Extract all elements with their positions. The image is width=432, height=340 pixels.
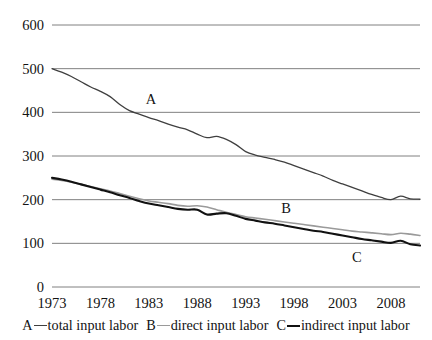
gridlines — [52, 25, 420, 287]
x-tick-label: 1998 — [271, 296, 317, 311]
series-line-c — [52, 178, 420, 246]
legend-line-swatch-a — [34, 325, 47, 326]
y-tick-label: 0 — [0, 280, 44, 295]
x-tick-label: 2008 — [368, 296, 414, 311]
legend-label: indirect input labor — [301, 317, 410, 333]
x-tick-label: 2003 — [320, 296, 366, 311]
line-chart: 0100200300400500600 19731978198319881993… — [0, 0, 432, 340]
series-line-b — [52, 179, 420, 235]
y-tick-label: 400 — [0, 105, 44, 120]
legend-label: total input labor — [48, 317, 139, 333]
legend-key: C — [276, 317, 285, 333]
y-tick-label: 500 — [0, 62, 44, 77]
legend-key: A — [22, 317, 32, 333]
x-tick-label: 1983 — [126, 296, 172, 311]
series-label-c: C — [352, 250, 362, 265]
legend-line-swatch-c — [287, 325, 300, 327]
series-line-a — [52, 69, 420, 200]
x-tick-label: 1978 — [77, 296, 123, 311]
x-tick-label: 1973 — [29, 296, 75, 311]
y-tick-label: 200 — [0, 193, 44, 208]
series-label-a: A — [146, 92, 156, 107]
legend-label: direct input labor — [171, 317, 269, 333]
y-tick-label: 600 — [0, 18, 44, 33]
legend-entry-b: Bdirect input labor — [146, 317, 268, 333]
y-tick-label: 100 — [0, 236, 44, 251]
legend-key: B — [146, 317, 155, 333]
legend-entry-a: Atotal input labor — [22, 317, 138, 333]
x-tick-label: 1988 — [174, 296, 220, 311]
series-label-b: B — [281, 201, 291, 216]
chart-plot-area — [0, 0, 432, 340]
legend-entry-c: Cindirect input labor — [276, 317, 409, 333]
y-tick-label: 300 — [0, 149, 44, 164]
x-tick-label: 1993 — [223, 296, 269, 311]
chart-legend: Atotal input laborBdirect input laborCin… — [0, 318, 432, 332]
legend-line-swatch-b — [157, 325, 170, 326]
